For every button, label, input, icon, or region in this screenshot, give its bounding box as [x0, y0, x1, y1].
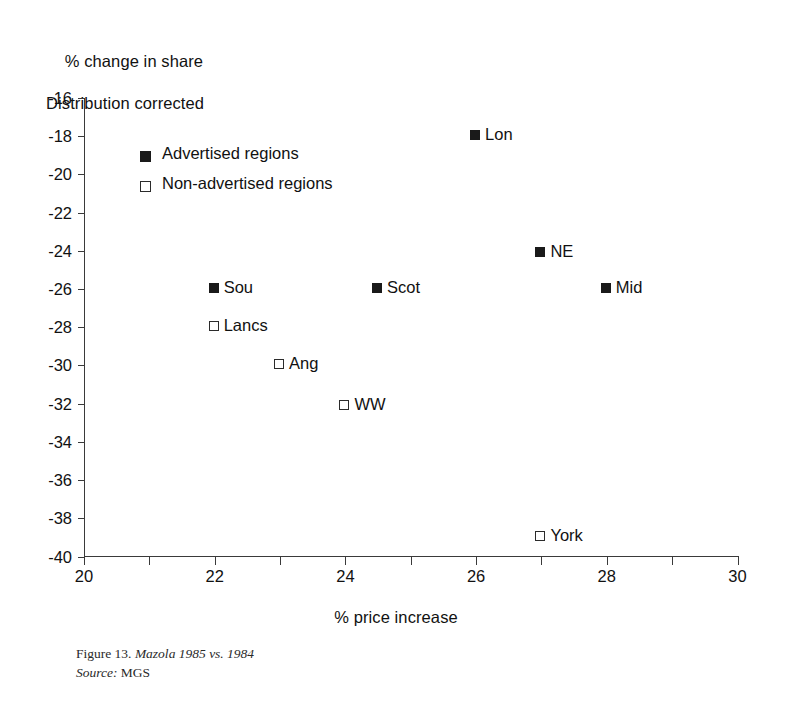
- x-tick-label: 22: [185, 567, 245, 586]
- y-tick-label: -34: [32, 432, 72, 451]
- data-point-label: NE: [550, 242, 573, 261]
- x-tick-label: 26: [446, 567, 506, 586]
- y-tick-label: -40: [32, 547, 72, 566]
- y-tick-label: -32: [32, 394, 72, 413]
- x-tick-label: 28: [577, 567, 637, 586]
- filled-square-marker-icon: [140, 151, 151, 162]
- data-point-label: Sou: [224, 278, 253, 297]
- y-tick-label: -16: [32, 89, 72, 108]
- y-tick: [78, 404, 85, 405]
- data-point-label: WW: [354, 395, 385, 414]
- filled-square-marker-icon: [601, 283, 611, 293]
- y-tick: [78, 442, 85, 443]
- caption-source-value: MGS: [121, 665, 150, 680]
- y-tick-label: -38: [32, 509, 72, 528]
- y-tick-label: -30: [32, 356, 72, 375]
- y-tick: [78, 289, 85, 290]
- x-tick: [607, 556, 608, 565]
- y-tick-label: -20: [32, 165, 72, 184]
- data-point-label: Ang: [289, 354, 318, 373]
- caption-figure-title: Mazola 1985 vs. 1984: [135, 646, 254, 661]
- data-point-label: Mid: [616, 278, 643, 297]
- y-tick: [78, 480, 85, 481]
- x-axis-title: % price increase: [0, 608, 792, 627]
- x-tick: [672, 556, 673, 565]
- y-tick-label: -18: [32, 127, 72, 146]
- caption-figure-number: Figure 13.: [76, 646, 132, 661]
- open-square-marker-icon: [535, 531, 545, 541]
- y-tick: [78, 136, 85, 137]
- legend-item-label: Advertised regions: [162, 144, 299, 163]
- x-tick: [215, 556, 216, 565]
- x-tick: [541, 556, 542, 565]
- data-point-label: Lancs: [224, 316, 268, 335]
- y-tick: [78, 98, 85, 99]
- x-tick: [476, 556, 477, 565]
- caption-line-source: Source: MGS: [76, 663, 254, 682]
- y-tick: [78, 518, 85, 519]
- data-point-label: Scot: [387, 278, 420, 297]
- y-tick-label: -28: [32, 318, 72, 337]
- filled-square-marker-icon: [535, 247, 545, 257]
- caption-line-figure: Figure 13. Mazola 1985 vs. 1984: [76, 644, 254, 663]
- x-tick-label: 20: [54, 567, 114, 586]
- x-tick: [738, 556, 739, 565]
- x-tick: [149, 556, 150, 565]
- y-axis-title-line1: % change in share: [65, 52, 203, 70]
- y-tick-label: -26: [32, 280, 72, 299]
- open-square-marker-icon: [274, 359, 284, 369]
- figure-caption: Figure 13. Mazola 1985 vs. 1984 Source: …: [76, 644, 254, 682]
- y-tick: [78, 213, 85, 214]
- filled-square-marker-icon: [470, 130, 480, 140]
- x-tick-label: 24: [315, 567, 375, 586]
- open-square-marker-icon: [209, 321, 219, 331]
- filled-square-marker-icon: [372, 283, 382, 293]
- x-tick-label: 30: [708, 567, 768, 586]
- y-tick: [78, 251, 85, 252]
- x-tick: [84, 556, 85, 565]
- y-tick: [78, 327, 85, 328]
- open-square-marker-icon: [140, 181, 151, 192]
- y-tick-label: -36: [32, 471, 72, 490]
- data-point-label: Lon: [485, 125, 513, 144]
- y-tick-label: -24: [32, 241, 72, 260]
- y-tick-label: -22: [32, 203, 72, 222]
- figure-container: % change in share Distribution corrected…: [0, 0, 792, 708]
- x-tick: [411, 556, 412, 565]
- open-square-marker-icon: [339, 400, 349, 410]
- caption-source-label: Source:: [76, 665, 117, 680]
- data-point-label: York: [550, 526, 582, 545]
- filled-square-marker-icon: [209, 283, 219, 293]
- y-tick: [78, 365, 85, 366]
- y-tick: [78, 174, 85, 175]
- legend-item-label: Non-advertised regions: [162, 174, 333, 193]
- x-tick: [280, 556, 281, 565]
- x-tick: [345, 556, 346, 565]
